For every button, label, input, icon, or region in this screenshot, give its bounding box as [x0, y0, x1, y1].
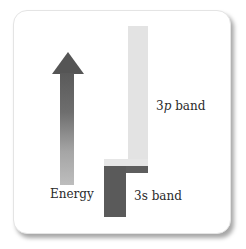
- energy-arrow-head-icon: [52, 52, 84, 74]
- 3s-prefix: 3: [134, 189, 142, 203]
- 3s-band-label: 3s band: [134, 189, 182, 203]
- 3s-band-vertical: [104, 166, 126, 217]
- 3p-band-overlap: [104, 159, 148, 166]
- 3p-band-vertical: [128, 26, 148, 166]
- energy-label: Energy: [50, 187, 94, 201]
- energy-arrow-shaft: [60, 73, 74, 185]
- 3s-suffix: band: [148, 189, 182, 203]
- 3p-band-label: 3p band: [156, 99, 205, 113]
- 3p-prefix: 3: [156, 99, 164, 113]
- 3p-suffix: band: [171, 99, 205, 113]
